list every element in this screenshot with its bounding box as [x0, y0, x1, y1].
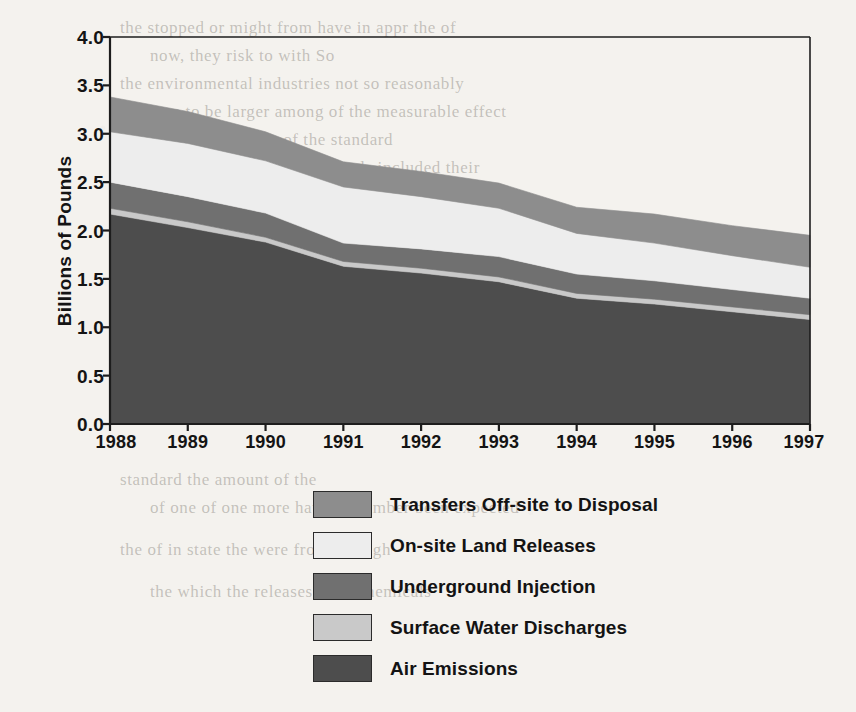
x-axis-tick-label: 1988	[96, 432, 137, 453]
legend-item: Transfers Off-site to Disposal	[313, 484, 783, 525]
x-axis-tick-label: 1995	[634, 432, 675, 453]
legend-swatch	[313, 573, 372, 600]
legend-label: Air Emissions	[390, 658, 518, 680]
x-axis-tick-label: 1993	[478, 432, 519, 453]
area-chart-svg	[0, 0, 856, 470]
x-axis-tick-label: 1996	[712, 432, 753, 453]
x-axis-tick-label: 1994	[556, 432, 597, 453]
legend-label: Underground Injection	[390, 576, 596, 598]
chart-legend: Transfers Off-site to DisposalOn-site La…	[313, 484, 783, 689]
x-axis-tick-label: 1989	[167, 432, 208, 453]
legend-item: Surface Water Discharges	[313, 607, 783, 648]
stacked-area-figure: Billions of Pounds 0.00.51.01.52.02.53.0…	[0, 0, 856, 712]
x-axis-tick-label: 1992	[401, 432, 442, 453]
legend-swatch	[313, 532, 372, 559]
legend-item: Underground Injection	[313, 566, 783, 607]
legend-swatch	[313, 491, 372, 518]
x-axis-tick-labels: 1988198919901991199219931994199519961997	[0, 432, 856, 466]
legend-item: Air Emissions	[313, 648, 783, 689]
legend-label: Surface Water Discharges	[390, 617, 627, 639]
legend-label: On-site Land Releases	[390, 535, 596, 557]
legend-label: Transfers Off-site to Disposal	[390, 494, 658, 516]
legend-item: On-site Land Releases	[313, 525, 783, 566]
legend-swatch	[313, 655, 372, 682]
x-axis-tick-label: 1990	[245, 432, 286, 453]
x-axis-tick-label: 1997	[784, 432, 825, 453]
legend-swatch	[313, 614, 372, 641]
chart-plot-region: Billions of Pounds 0.00.51.01.52.02.53.0…	[0, 0, 856, 470]
x-axis-tick-label: 1991	[323, 432, 364, 453]
